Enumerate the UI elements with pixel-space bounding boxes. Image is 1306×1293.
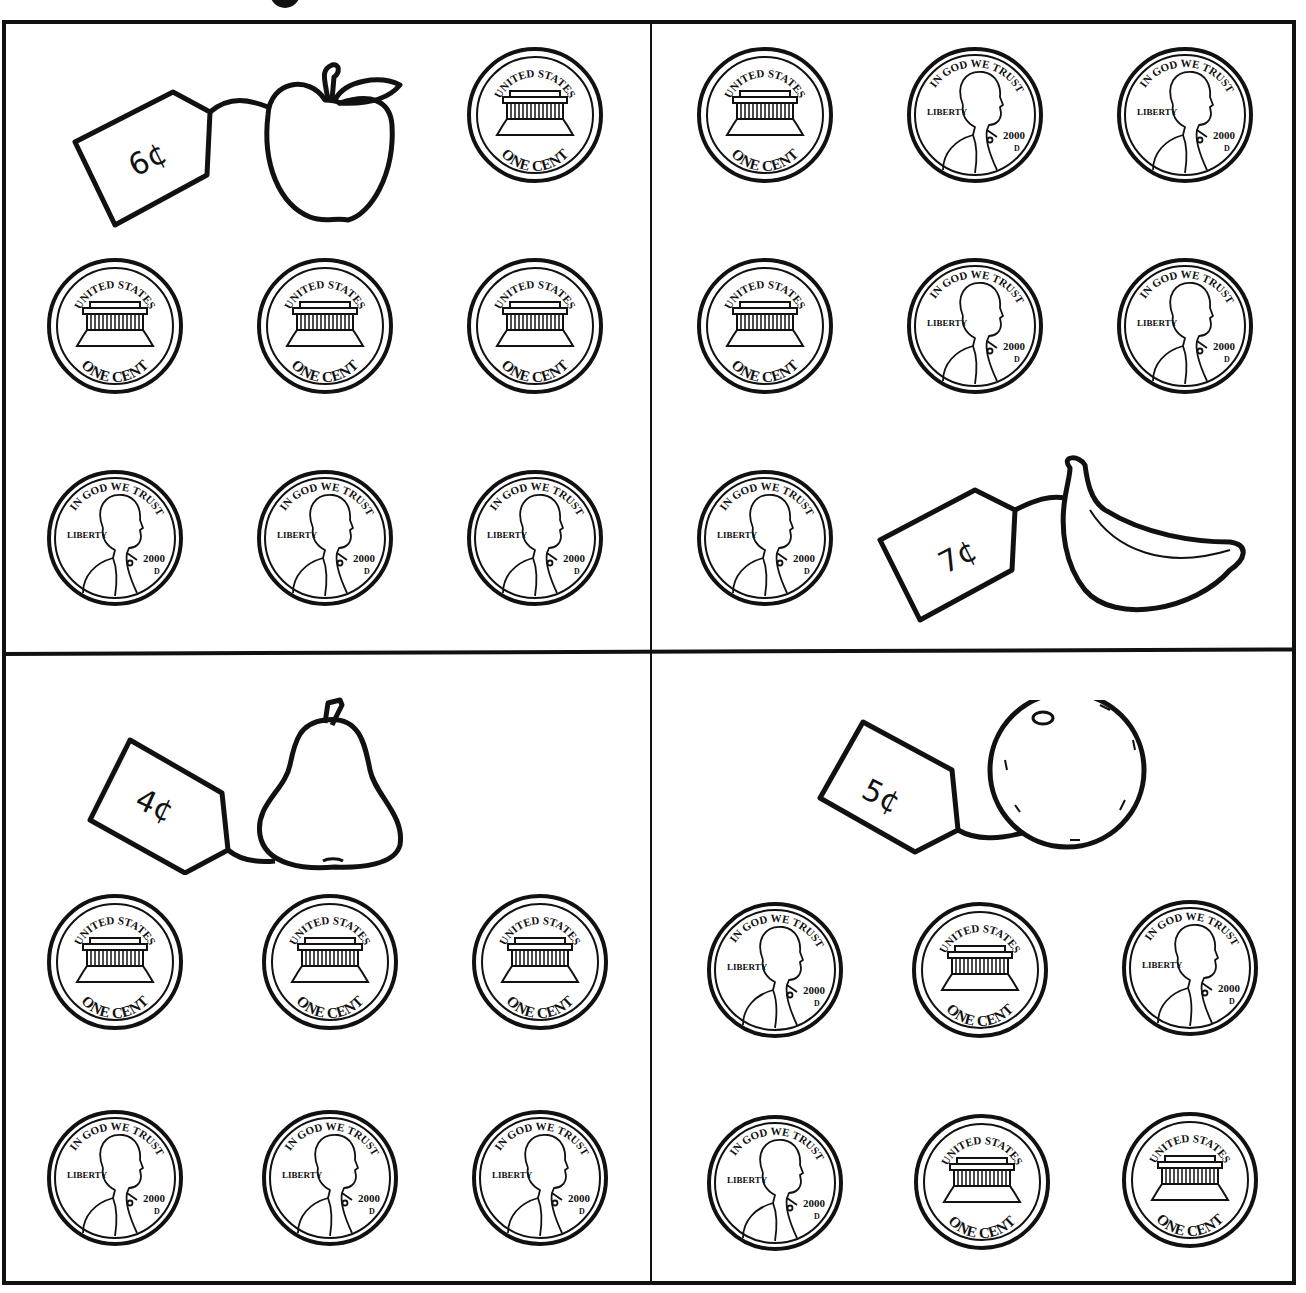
- penny-heads-icon: IN GOD WE TRUST LIBERTY 2000 D: [255, 468, 395, 608]
- pear-with-price-tag: 4¢: [80, 685, 410, 875]
- penny-heads: IN GOD WE TRUST LIBERTY 2000 D: [695, 468, 835, 608]
- coin-year: 2000: [353, 552, 376, 564]
- penny-heads-icon: IN GOD WE TRUST LIBERTY 2000 D: [705, 1113, 845, 1253]
- penny-tails-icon: UNITED STATES ONE CENT: [912, 1112, 1052, 1252]
- coin-liberty: LIBERTY: [277, 530, 318, 540]
- penny-tails-icon: UNITED STATES ONE CENT: [1120, 1110, 1260, 1250]
- coin-liberty: LIBERTY: [727, 962, 768, 972]
- coin-year: 2000: [1218, 982, 1241, 994]
- penny-heads-icon: IN GOD WE TRUST LIBERTY 2000 D: [705, 900, 845, 1040]
- penny-tails: UNITED STATES ONE CENT: [465, 45, 605, 185]
- coin-year: 2000: [1213, 340, 1236, 352]
- coin-year: 2000: [793, 552, 816, 564]
- penny-heads-icon: IN GOD WE TRUST LIBERTY 2000 D: [695, 468, 835, 608]
- coin-liberty: LIBERTY: [1142, 960, 1183, 970]
- coin-year: 2000: [568, 1192, 591, 1204]
- penny-tails: UNITED STATES ONE CENT: [910, 900, 1050, 1040]
- penny-heads-icon: IN GOD WE TRUST LIBERTY 2000 D: [1115, 45, 1255, 185]
- penny-tails-icon: UNITED STATES ONE CENT: [465, 256, 605, 396]
- penny-heads-icon: IN GOD WE TRUST LIBERTY 2000 D: [45, 1108, 185, 1248]
- penny-tails: UNITED STATES ONE CENT: [1120, 1110, 1260, 1250]
- penny-tails: UNITED STATES ONE CENT: [695, 45, 835, 185]
- penny-heads-icon: IN GOD WE TRUST LIBERTY 2000 D: [905, 256, 1045, 396]
- penny-tails: UNITED STATES ONE CENT: [695, 256, 835, 396]
- orange-with-price-tag: 5¢: [815, 700, 1155, 860]
- penny-heads-icon: IN GOD WE TRUST LIBERTY 2000 D: [260, 1108, 400, 1248]
- penny-tails: UNITED STATES ONE CENT: [260, 892, 400, 1032]
- coin-year: 2000: [1003, 340, 1026, 352]
- coin-mint-mark: D: [814, 1212, 820, 1221]
- coin-liberty: LIBERTY: [67, 530, 108, 540]
- coin-liberty: LIBERTY: [717, 530, 758, 540]
- penny-tails-icon: UNITED STATES ONE CENT: [45, 892, 185, 1032]
- penny-heads: IN GOD WE TRUST LIBERTY 2000 D: [470, 1108, 610, 1248]
- penny-tails-icon: UNITED STATES ONE CENT: [695, 256, 835, 396]
- coin-mint-mark: D: [804, 567, 810, 576]
- coin-mint-mark: D: [364, 567, 370, 576]
- coin-year: 2000: [358, 1192, 381, 1204]
- pear-icon: 4¢: [80, 685, 410, 875]
- penny-tails: UNITED STATES ONE CENT: [45, 892, 185, 1032]
- coin-mint-mark: D: [579, 1207, 585, 1216]
- coin-mint-mark: D: [1224, 355, 1230, 364]
- orange-icon: 5¢: [815, 700, 1155, 860]
- coin-mint-mark: D: [1014, 144, 1020, 153]
- penny-heads: IN GOD WE TRUST LIBERTY 2000 D: [465, 468, 605, 608]
- coin-year: 2000: [803, 1197, 826, 1209]
- coin-mint-mark: D: [1229, 997, 1235, 1006]
- banana-icon: 7¢: [875, 450, 1255, 630]
- page-top-mark: [270, 0, 300, 8]
- penny-heads-icon: IN GOD WE TRUST LIBERTY 2000 D: [1115, 256, 1255, 396]
- penny-heads: IN GOD WE TRUST LIBERTY 2000 D: [705, 1113, 845, 1253]
- penny-heads: IN GOD WE TRUST LIBERTY 2000 D: [905, 45, 1045, 185]
- penny-heads-icon: IN GOD WE TRUST LIBERTY 2000 D: [465, 468, 605, 608]
- coin-mint-mark: D: [574, 567, 580, 576]
- coin-liberty: LIBERTY: [1137, 318, 1178, 328]
- penny-heads-icon: IN GOD WE TRUST LIBERTY 2000 D: [470, 1108, 610, 1248]
- penny-heads: IN GOD WE TRUST LIBERTY 2000 D: [1120, 898, 1260, 1038]
- banana-with-price-tag: 7¢: [875, 450, 1255, 630]
- penny-tails: UNITED STATES ONE CENT: [912, 1112, 1052, 1252]
- coin-year: 2000: [143, 552, 166, 564]
- penny-heads: IN GOD WE TRUST LIBERTY 2000 D: [705, 900, 845, 1040]
- penny-tails: UNITED STATES ONE CENT: [45, 256, 185, 396]
- coin-mint-mark: D: [369, 1207, 375, 1216]
- penny-tails: UNITED STATES ONE CENT: [255, 256, 395, 396]
- apple-icon: 6¢: [70, 55, 420, 235]
- coin-year: 2000: [563, 552, 586, 564]
- coin-year: 2000: [1003, 129, 1026, 141]
- coin-liberty: LIBERTY: [67, 1170, 108, 1180]
- coin-mint-mark: D: [1014, 355, 1020, 364]
- coin-mint-mark: D: [154, 567, 160, 576]
- coin-liberty: LIBERTY: [927, 107, 968, 117]
- coin-liberty: LIBERTY: [927, 318, 968, 328]
- penny-heads: IN GOD WE TRUST LIBERTY 2000 D: [45, 1108, 185, 1248]
- penny-heads: IN GOD WE TRUST LIBERTY 2000 D: [905, 256, 1045, 396]
- penny-heads: IN GOD WE TRUST LIBERTY 2000 D: [45, 468, 185, 608]
- penny-tails-icon: UNITED STATES ONE CENT: [45, 256, 185, 396]
- apple-with-price-tag: 6¢: [70, 55, 420, 235]
- coin-liberty: LIBERTY: [1137, 107, 1178, 117]
- penny-tails-icon: UNITED STATES ONE CENT: [470, 892, 610, 1032]
- penny-tails-icon: UNITED STATES ONE CENT: [260, 892, 400, 1032]
- coin-liberty: LIBERTY: [487, 530, 528, 540]
- coin-year: 2000: [143, 1192, 166, 1204]
- penny-tails-icon: UNITED STATES ONE CENT: [465, 45, 605, 185]
- penny-tails-icon: UNITED STATES ONE CENT: [910, 900, 1050, 1040]
- penny-heads-icon: IN GOD WE TRUST LIBERTY 2000 D: [1120, 898, 1260, 1038]
- coin-year: 2000: [1213, 129, 1236, 141]
- coin-year: 2000: [803, 984, 826, 996]
- coin-liberty: LIBERTY: [282, 1170, 323, 1180]
- penny-tails-icon: UNITED STATES ONE CENT: [695, 45, 835, 185]
- penny-heads: IN GOD WE TRUST LIBERTY 2000 D: [255, 468, 395, 608]
- coin-mint-mark: D: [1224, 144, 1230, 153]
- coin-mint-mark: D: [154, 1207, 160, 1216]
- penny-heads-icon: IN GOD WE TRUST LIBERTY 2000 D: [905, 45, 1045, 185]
- coin-liberty: LIBERTY: [727, 1175, 768, 1185]
- penny-heads: IN GOD WE TRUST LIBERTY 2000 D: [260, 1108, 400, 1248]
- coin-mint-mark: D: [814, 999, 820, 1008]
- coin-liberty: LIBERTY: [492, 1170, 533, 1180]
- penny-heads: IN GOD WE TRUST LIBERTY 2000 D: [1115, 45, 1255, 185]
- penny-tails-icon: UNITED STATES ONE CENT: [255, 256, 395, 396]
- penny-heads: IN GOD WE TRUST LIBERTY 2000 D: [1115, 256, 1255, 396]
